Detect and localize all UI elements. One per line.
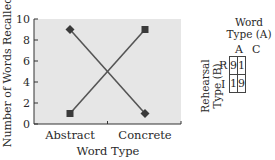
y-tick-label: 0 (23, 118, 30, 131)
cell-r-c: 1 (238, 57, 246, 75)
interaction-line-chart: 0246810 AbstractConcrete Word Type Numbe… (0, 0, 200, 160)
row-header-i: I (221, 78, 225, 91)
col-header-a: A (235, 43, 243, 56)
y-tick-label: 4 (23, 76, 30, 89)
cell-r-a: 9 (230, 57, 238, 75)
y-tick-label: 2 (23, 97, 30, 110)
x-tick-label: Concrete (118, 128, 171, 142)
table-title-line1: Word (222, 16, 275, 28)
table-column-title: Word Type (A) (222, 16, 275, 40)
y-tick-label: 8 (23, 34, 30, 47)
cell-i-a: 1 (230, 75, 238, 93)
y-tick-label: 10 (16, 13, 30, 26)
table-title-line2: Type (A) (222, 28, 275, 40)
square-marker (142, 26, 149, 33)
cell-grid: 9 1 1 9 (229, 56, 246, 93)
col-header-c: C (252, 43, 260, 56)
row-header-r: R (219, 59, 227, 72)
x-axis-label: Word Type (77, 144, 140, 158)
y-axis-label: Number of Words Recalled (1, 0, 14, 147)
square-marker (67, 110, 74, 117)
y-tick-label: 6 (23, 55, 30, 68)
table-row-title-line1: Rehearsal (199, 58, 211, 114)
x-tick-label: Abstract (44, 128, 95, 142)
cell-i-c: 9 (238, 75, 246, 93)
